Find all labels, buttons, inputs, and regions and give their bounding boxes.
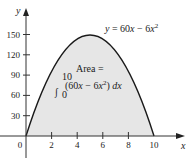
x-tick-label: 8: [126, 140, 131, 150]
integrand: (60x − 6x2) dx: [65, 79, 122, 92]
y-tick-label: 150: [7, 30, 21, 40]
x-tick-label: 10: [150, 140, 160, 150]
area-label: Area =: [76, 63, 104, 74]
x-tick-label: 2: [49, 140, 54, 150]
origin-label: 0: [18, 140, 23, 150]
y-tick-label: 60: [11, 90, 21, 100]
x-axis-label: x: [180, 140, 186, 151]
area-chart: 150 120 90 60 30 0 2 4 6 8 10 y x y = 60…: [0, 0, 189, 158]
y-tick-label: 30: [11, 111, 21, 121]
function-label: y = 60x − 6x2: [104, 22, 159, 34]
x-axis-arrow-icon: [176, 133, 185, 139]
y-tick-label: 90: [11, 70, 21, 80]
y-tick-label: 120: [7, 50, 21, 60]
y-axis-label: y: [15, 5, 21, 16]
x-tick-label: 6: [101, 140, 106, 150]
y-axis-arrow-icon: [23, 8, 29, 16]
x-tick-label: 4: [75, 140, 80, 150]
